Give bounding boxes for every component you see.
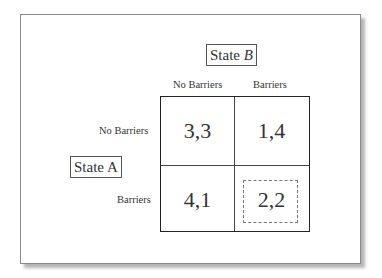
cell-barriers-no: 4,1 [161, 166, 234, 233]
cell-no-barriers: 1,4 [235, 97, 308, 164]
column-header-no-barriers: No Barriers [173, 79, 222, 90]
cell-no-no: 3,3 [161, 97, 234, 164]
state-b-label: State B [206, 44, 257, 66]
state-a-label: State A [70, 156, 122, 178]
state-b-prefix: State [210, 47, 244, 63]
state-b-var: B [244, 47, 253, 63]
cell-barriers-barriers: 2,2 [235, 166, 308, 233]
row-header-barriers: Barriers [117, 194, 151, 205]
payoff-grid: 3,3 1,4 4,1 2,2 [160, 96, 310, 232]
state-a-prefix: State [74, 159, 107, 175]
column-header-barriers: Barriers [253, 79, 287, 90]
state-a-var: A [107, 159, 118, 175]
row-header-no-barriers: No Barriers [99, 125, 148, 136]
